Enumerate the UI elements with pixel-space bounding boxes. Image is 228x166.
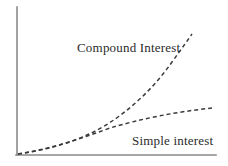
compound-interest-label: Compound Interest xyxy=(77,40,180,55)
simple-interest-label: Simple interest xyxy=(132,133,213,148)
chart-container: Compound Interest Simple interest xyxy=(0,0,228,166)
